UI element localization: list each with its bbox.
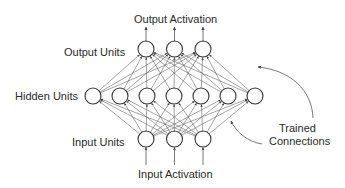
trained-connections-label-line1: Trained: [279, 122, 316, 134]
connection-edge: [154, 52, 248, 92]
hidden-unit: [247, 88, 263, 104]
curved-arrow-upper-icon: [258, 67, 313, 118]
connection-edge: [124, 103, 141, 132]
hidden-unit: [112, 88, 128, 104]
connection-edge: [201, 104, 202, 131]
connection-edge: [124, 56, 142, 89]
connection-edge: [153, 53, 221, 92]
hidden-unit: [193, 88, 209, 104]
connection-edge: [146, 57, 147, 88]
output-units-label: Output Units: [64, 46, 125, 58]
connection-edge: [182, 53, 248, 92]
connection-edge: [100, 52, 195, 93]
hidden-units-label: Hidden Units: [15, 90, 78, 102]
connection-edge: [146, 104, 147, 131]
connection-edge: [101, 99, 196, 136]
input-unit: [195, 131, 211, 147]
connection-edge: [207, 103, 224, 132]
input-activation-label: Input Activation: [138, 168, 213, 180]
curved-arrow-lower-icon: [231, 121, 262, 144]
connection-edge: [128, 100, 196, 135]
hidden-unit: [220, 88, 236, 104]
hidden-unit: [139, 88, 155, 104]
connection-edge: [101, 100, 168, 135]
output-unit: [195, 41, 211, 57]
hidden-unit: [166, 88, 182, 104]
output-activation-label: Output Activation: [134, 13, 217, 25]
connection-edge: [127, 53, 196, 92]
trained-connections-label-line2: Connections: [269, 135, 330, 147]
connection-edge: [153, 54, 196, 90]
hidden-unit: [85, 88, 101, 104]
output-unit: [138, 41, 154, 57]
input-units-label: Input Units: [72, 136, 125, 148]
hidden-output-connections: [99, 52, 249, 93]
input-unit: [138, 131, 154, 147]
output-unit: [167, 41, 183, 57]
connection-edge: [153, 99, 247, 136]
connection-edge: [100, 53, 167, 92]
input-unit: [167, 131, 183, 147]
